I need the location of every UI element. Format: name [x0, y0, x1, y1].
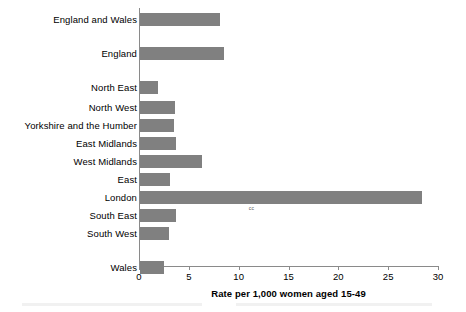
axis-tick-label: 30	[423, 271, 453, 283]
axis-tick	[189, 266, 190, 270]
axis-tick	[438, 266, 439, 270]
axis-tick	[139, 266, 140, 270]
bar-row: North East	[0, 80, 466, 95]
bar-row: East	[0, 172, 466, 187]
category-label: East Midlands	[76, 136, 137, 151]
bar-row: North West	[0, 100, 466, 115]
axis-tick	[338, 266, 339, 270]
axis-tick	[239, 266, 240, 270]
axis-tick-label: 15	[274, 271, 304, 283]
bar	[140, 137, 176, 150]
bar	[140, 47, 224, 60]
category-label: West Midlands	[74, 154, 137, 169]
london-bar-annotation: cc	[249, 205, 255, 211]
bar-row: England and Wales	[0, 12, 466, 27]
axis-tick-label: 0	[124, 271, 154, 283]
bar	[140, 101, 175, 114]
bar-row: East Midlands	[0, 136, 466, 151]
category-label: London	[105, 190, 137, 205]
bar-chart: England and WalesEnglandNorth EastNorth …	[0, 0, 466, 312]
axis-tick	[289, 266, 290, 270]
axis-tick-label: 5	[174, 271, 204, 283]
scan-artifact-left	[22, 303, 202, 306]
bar	[140, 13, 220, 26]
bar-row: West Midlands	[0, 154, 466, 169]
category-label: North East	[91, 80, 137, 95]
bar	[140, 227, 169, 240]
plot-area: England and WalesEnglandNorth EastNorth …	[0, 0, 466, 312]
bar	[140, 173, 170, 186]
category-label: Yorkshire and the Humber	[25, 118, 137, 133]
category-label: East	[118, 172, 137, 187]
bar-row: London	[0, 190, 466, 205]
bar	[140, 191, 422, 204]
category-label: North West	[89, 100, 137, 115]
bar	[140, 81, 158, 94]
category-label: South East	[90, 208, 137, 223]
bar	[140, 155, 202, 168]
value-axis-title: Rate per 1,000 women aged 15-49	[139, 288, 438, 299]
bar	[140, 209, 176, 222]
axis-tick-label: 20	[323, 271, 353, 283]
axis-tick	[388, 266, 389, 270]
bar-row: England	[0, 46, 466, 61]
bar-row: Yorkshire and the Humber	[0, 118, 466, 133]
category-label: South West	[87, 226, 137, 241]
category-label: England	[101, 46, 137, 61]
axis-tick-label: 10	[224, 271, 254, 283]
scan-artifact-right	[236, 303, 432, 306]
axis-tick-label: 25	[373, 271, 403, 283]
bar-rows: England and WalesEnglandNorth EastNorth …	[0, 8, 466, 266]
bar-row: South East	[0, 208, 466, 223]
category-label: England and Wales	[53, 12, 137, 27]
bar-row: South West	[0, 226, 466, 241]
bar	[140, 119, 174, 132]
